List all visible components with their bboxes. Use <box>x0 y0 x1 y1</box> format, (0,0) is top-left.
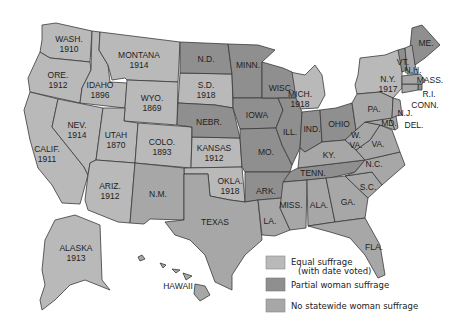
label-md: MD. <box>381 118 397 128</box>
label-ind: IND. <box>304 124 321 134</box>
label-wyo-year: 1869 <box>143 103 162 113</box>
state-hawaii-1 <box>138 255 145 261</box>
label-okla-year: 1918 <box>221 186 240 196</box>
state-hawaii-5 <box>194 284 210 301</box>
label-kansas: KANSAS <box>197 143 232 153</box>
label-alaska-year: 1913 <box>67 253 86 263</box>
label-miss: MISS. <box>279 200 302 210</box>
label-me: ME. <box>418 38 433 48</box>
label-ore: ORE. <box>48 70 69 80</box>
legend-sublabel-equal: (with date voted) <box>298 266 371 276</box>
label-utah-year: 1870 <box>107 140 126 150</box>
label-montana: MONTANA <box>118 50 160 60</box>
label-colo-year: 1893 <box>153 147 172 157</box>
label-nebr: NEBR. <box>196 117 222 127</box>
label-wva-2: VA. <box>349 140 362 150</box>
label-wash-year: 1910 <box>60 44 79 54</box>
label-sd-year: 1918 <box>197 90 216 100</box>
label-montana-year: 1914 <box>130 60 149 70</box>
label-mo: MO. <box>258 147 274 157</box>
label-wyo: WYO. <box>141 93 164 103</box>
label-ala: ALA. <box>310 200 328 210</box>
label-colo: COLO. <box>149 137 175 147</box>
label-calif-year: 1911 <box>38 154 57 164</box>
label-ore-year: 1912 <box>49 80 68 90</box>
label-okla: OKLA. <box>217 176 242 186</box>
label-mass: MASS. <box>417 75 443 85</box>
label-idaho: IDAHO <box>87 80 114 90</box>
label-idaho-year: 1896 <box>91 90 110 100</box>
label-ark: ARK. <box>256 186 276 196</box>
label-del: DEL. <box>405 120 424 130</box>
label-nev-year: 1914 <box>68 130 87 140</box>
label-nev: NEV. <box>67 120 86 130</box>
label-ga: GA. <box>341 197 356 207</box>
label-la: LA. <box>264 216 277 226</box>
label-wash: WASH. <box>55 34 83 44</box>
label-ny: N.Y. <box>380 74 395 84</box>
label-ri: R.I. <box>422 89 435 99</box>
label-mich-year: 1918 <box>291 99 310 109</box>
label-conn: CONN. <box>411 100 438 110</box>
state-hawaii-3 <box>172 269 180 273</box>
label-ky: KY. <box>323 150 336 160</box>
state-conn <box>402 84 418 93</box>
label-utah: UTAH <box>105 130 128 140</box>
state-hawaii-2 <box>160 263 166 268</box>
us-suffrage-map: WASH. 1910 ORE. 1912 CALIF. 1911 IDAHO 1… <box>0 0 459 332</box>
label-nh: N.H. <box>405 65 422 75</box>
label-sd: S.D. <box>198 80 215 90</box>
label-nj: N.J. <box>397 108 412 118</box>
label-wva-1: W. <box>351 130 361 140</box>
legend-label-partial: Partial woman suffrage <box>291 280 389 290</box>
label-calif: CALIF. <box>34 144 60 154</box>
label-kansas-year: 1912 <box>205 153 224 163</box>
label-tenn: TENN. <box>300 168 326 178</box>
legend-swatch-equal <box>266 256 285 269</box>
legend-swatch-none <box>266 299 285 312</box>
label-hawaii: HAWAII <box>163 281 193 291</box>
legend-swatch-partial <box>266 278 285 291</box>
label-ny-year: 1917 <box>379 84 398 94</box>
state-hawaii-4 <box>183 273 192 280</box>
label-mich: MICH. <box>288 89 312 99</box>
label-nc: N.C. <box>366 159 383 169</box>
legend-label-none: No statewide woman suffrage <box>291 301 418 311</box>
label-ariz: ARIZ. <box>99 181 121 191</box>
label-nm: N.M. <box>149 189 167 199</box>
label-pa: PA. <box>367 104 380 114</box>
label-ariz-year: 1912 <box>101 191 120 201</box>
label-alaska: ALASKA <box>59 243 92 253</box>
label-texas: TEXAS <box>201 217 229 227</box>
label-va: VA. <box>371 139 384 149</box>
label-fla: FLA. <box>365 242 383 252</box>
label-iowa: IOWA <box>246 110 269 120</box>
label-nd: N.D. <box>198 54 215 64</box>
label-ill: ILL. <box>283 127 297 137</box>
label-sc: S.C. <box>360 182 377 192</box>
label-minn: MINN. <box>236 60 260 70</box>
legend: Equal suffrage (with date voted) Partial… <box>266 256 418 312</box>
label-ohio: OHIO <box>328 119 350 129</box>
